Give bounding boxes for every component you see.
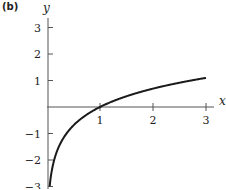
axes	[47, 18, 214, 189]
y-tick-label: −2	[25, 154, 41, 167]
x-axis-label: x	[219, 94, 226, 108]
y-tick-label: 1	[34, 75, 41, 88]
chart: xy123321−1−2−3	[0, 0, 226, 189]
y-axis-label: y	[42, 1, 50, 15]
x-tick-label: 3	[203, 114, 210, 127]
y-tick-label: 3	[34, 22, 41, 35]
x-tick-label: 2	[150, 114, 157, 127]
ln-curve	[50, 78, 206, 187]
y-tick-label: −3	[25, 181, 41, 190]
y-tick-label: −1	[25, 128, 41, 141]
y-tick-label: 2	[34, 48, 41, 61]
x-tick-label: 1	[97, 114, 104, 127]
